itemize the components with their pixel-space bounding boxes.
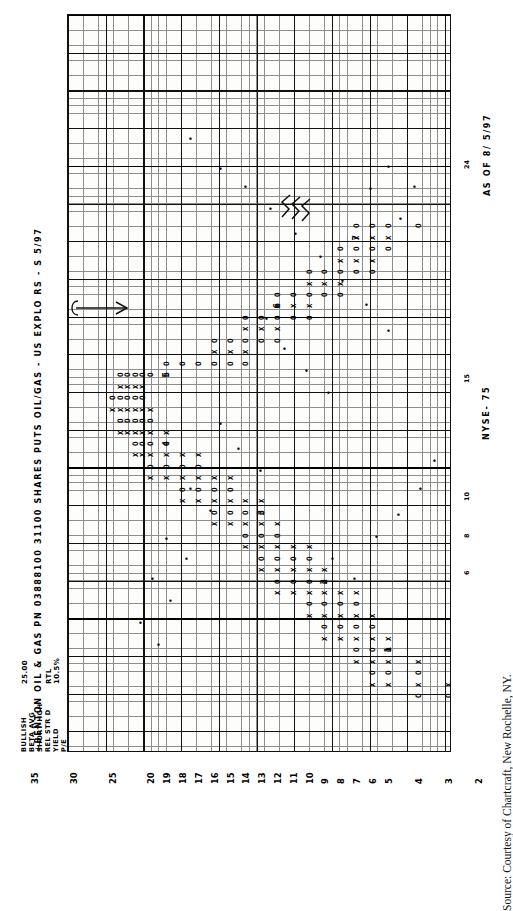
source-caption: Source: Courtesy of Chartcraft, New Roch… xyxy=(501,674,513,910)
price-axis-tick: 17 xyxy=(194,772,204,784)
price-axis-tick: 15 xyxy=(226,772,236,784)
price-axis-tick: 9 xyxy=(320,778,330,784)
stats-legend: BULLISH25.00BETA AVGSHORT HGHREL STR DRT… xyxy=(14,626,110,756)
price-axis-tick: 11 xyxy=(289,772,299,784)
price-axis-tick: 6 xyxy=(368,778,378,784)
annotation-layer xyxy=(68,15,451,752)
price-axis-tick: 5 xyxy=(384,778,394,784)
stat-value: 10.5% xyxy=(53,658,61,684)
price-axis-tick: 12 xyxy=(273,772,283,784)
price-tick: 15 xyxy=(463,374,471,383)
price-axis-tick: 4 xyxy=(414,778,424,784)
price-axis: 353025201918171615141312111098765432 xyxy=(0,754,505,787)
stat-value: 25.00 xyxy=(21,660,29,684)
price-axis-tick: 7 xyxy=(352,778,362,784)
as-of-label: AS OF 8/ 5/97 xyxy=(482,114,492,196)
stat-label: SHORT HGH xyxy=(36,704,44,752)
price-axis-tick: 30 xyxy=(69,772,79,784)
price-axis-tick: 14 xyxy=(241,772,251,784)
price-axis-tick: 13 xyxy=(257,772,267,784)
price-tick: 6 xyxy=(463,570,471,574)
price-axis-tick: 2 xyxy=(474,778,484,784)
stat-label: BETA AVG xyxy=(28,712,36,752)
stat-value: RTL xyxy=(45,668,53,684)
stat-label: P/E xyxy=(60,739,68,752)
price-tick: 8 xyxy=(463,534,471,538)
stat-label: BULLISH xyxy=(20,717,28,752)
stat-label: YIELD xyxy=(52,728,60,752)
price-axis-tick: 18 xyxy=(178,772,188,784)
price-axis-tick: 25 xyxy=(108,772,118,784)
price-tick: 24 xyxy=(463,160,471,169)
price-axis-tick: 19 xyxy=(162,772,172,784)
price-axis-tick: 35 xyxy=(30,772,40,784)
price-axis-tick: 8 xyxy=(336,778,346,784)
price-axis-tick: 3 xyxy=(444,778,454,784)
stat-label: REL STR D xyxy=(44,709,52,752)
exchange-label: NYSE- 75 xyxy=(481,386,491,440)
price-axis-tick: 16 xyxy=(210,772,220,784)
right-price-ticks: 24151086 xyxy=(452,14,468,752)
chart-plot-area: OOXXXXOOOXXXXOOO1XXXXXOOOOXXXXXOOOOXXXXX… xyxy=(67,14,451,752)
price-axis-tick: 20 xyxy=(146,772,156,784)
price-tick: 10 xyxy=(463,492,471,501)
price-axis-tick: 10 xyxy=(305,772,315,784)
